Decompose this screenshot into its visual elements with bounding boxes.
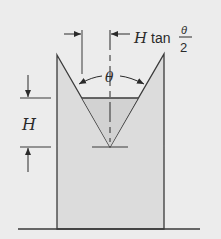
v-notch-weir-diagram: H tan θ 2 θ H bbox=[0, 0, 221, 239]
angle-arc-right bbox=[120, 76, 144, 84]
angle-arc-left bbox=[79, 76, 102, 84]
diagram-svg: H tan θ 2 θ H bbox=[0, 0, 221, 239]
half-width-label-tan: tan bbox=[151, 30, 170, 46]
half-width-label-two: 2 bbox=[180, 40, 187, 55]
half-width-label-theta: θ bbox=[181, 24, 187, 36]
half-width-label-h: H bbox=[133, 29, 148, 47]
angle-label: θ bbox=[105, 69, 114, 85]
height-label: H bbox=[21, 115, 37, 134]
